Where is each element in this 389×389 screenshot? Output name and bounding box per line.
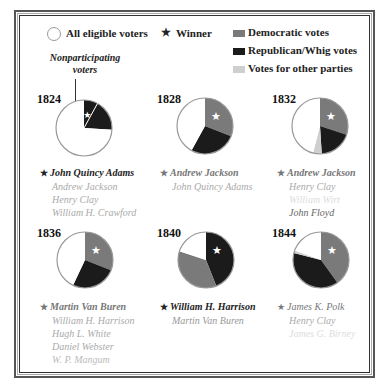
- candidate: William Wirt: [277, 193, 356, 206]
- candidate-name: Hugh L. White: [52, 328, 111, 339]
- candidate-name: Henry Clay: [289, 181, 335, 192]
- candidate-name: James G. Birney: [289, 328, 355, 339]
- winner-star-icon: ★: [327, 244, 337, 257]
- candidate: John Quincy Adams: [160, 180, 252, 193]
- winner-candidate: ★Andrew Jackson: [277, 166, 356, 180]
- candidate: William H. Crawford: [40, 206, 136, 219]
- candidate-name: Andrew Jackson: [170, 167, 239, 178]
- winner-candidate: ★William H. Harrison: [160, 300, 255, 314]
- candidate-list-1832: ★Andrew JacksonHenry ClayWilliam WirtJoh…: [277, 166, 356, 219]
- candidate-list-1828: ★Andrew JacksonJohn Quincy Adams: [160, 166, 252, 193]
- candidate: Daniel Webster: [40, 340, 135, 353]
- candidate-name: Andrew Jackson: [287, 167, 356, 178]
- winner-candidate: ★James K. Polk: [277, 300, 355, 314]
- winner-star-icon: ★: [160, 168, 168, 178]
- candidate-name: William Wirt: [289, 194, 340, 205]
- candidate-name: Martin Van Buren: [172, 315, 244, 326]
- candidate-name: John Quincy Adams: [172, 181, 252, 192]
- winner-star-icon: ★: [40, 302, 48, 312]
- candidate-list-1836: ★Martin Van BurenWilliam H. HarrisonHugh…: [40, 300, 135, 366]
- winner-star-icon: ★: [160, 302, 168, 312]
- candidate-name: Henry Clay: [52, 194, 98, 205]
- candidate-list-1844: ★James K. PolkHenry ClayJames G. Birney: [277, 300, 355, 340]
- candidate-name: John Floyd: [289, 207, 334, 218]
- candidate-list-1840: ★William H. HarrisonMartin Van Buren: [160, 300, 255, 327]
- candidate: John Floyd: [277, 206, 356, 219]
- candidate: W. P. Mangum: [40, 353, 135, 366]
- candidate: William H. Harrison: [40, 314, 135, 327]
- candidate: Hugh L. White: [40, 327, 135, 340]
- candidate-name: Andrew Jackson: [52, 181, 117, 192]
- winner-candidate: ★Martin Van Buren: [40, 300, 135, 314]
- candidate-name: Henry Clay: [289, 315, 335, 326]
- candidate-name: James K. Polk: [287, 301, 345, 312]
- candidate: Henry Clay: [40, 193, 136, 206]
- winner-star-icon: ★: [277, 302, 285, 312]
- winner-candidate: ★John Quincy Adams: [40, 166, 136, 180]
- candidate-name: William H. Harrison: [52, 315, 135, 326]
- candidate-list-1824: ★John Quincy AdamsAndrew JacksonHenry Cl…: [40, 166, 136, 219]
- candidate: Andrew Jackson: [40, 180, 136, 193]
- candidate-name: John Quincy Adams: [50, 167, 134, 178]
- candidate-name: Martin Van Buren: [50, 301, 126, 312]
- candidate-name: W. P. Mangum: [52, 354, 110, 365]
- winner-star-icon: ★: [277, 168, 285, 178]
- candidate: Henry Clay: [277, 180, 356, 193]
- candidate: Martin Van Buren: [160, 314, 255, 327]
- candidate: Henry Clay: [277, 314, 355, 327]
- winner-star-icon: ★: [40, 168, 48, 178]
- winner-candidate: ★Andrew Jackson: [160, 166, 252, 180]
- candidate: James G. Birney: [277, 327, 355, 340]
- candidate-name: William H. Crawford: [52, 207, 136, 218]
- candidate-name: Daniel Webster: [52, 341, 114, 352]
- candidate-name: William H. Harrison: [170, 301, 255, 312]
